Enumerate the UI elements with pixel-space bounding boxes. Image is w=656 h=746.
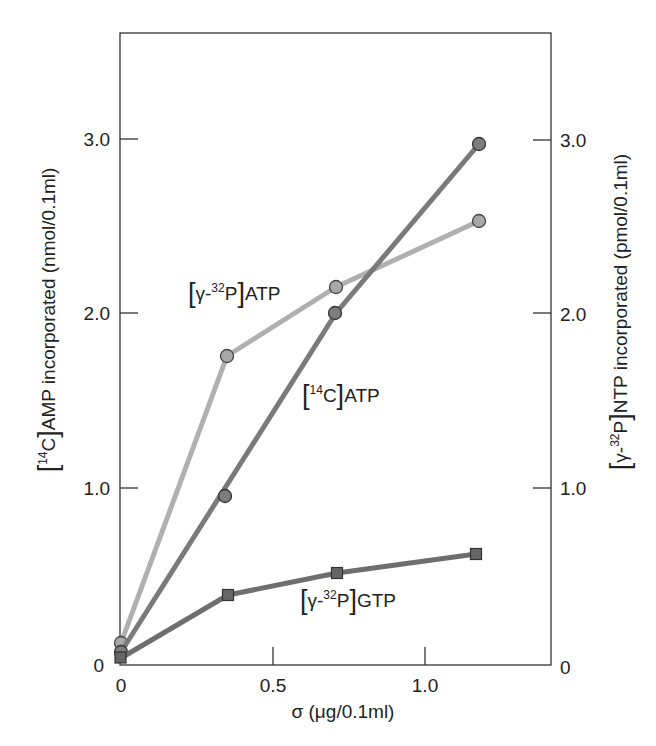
left-axis-title: [14C]AMP incorporated (nmol/0.1ml): [33, 168, 63, 473]
x-tick-0: 0: [116, 675, 127, 696]
left-tick-3: 3.0: [84, 129, 110, 150]
chart: 0 1.0 2.0 3.0 0 1.0 2.0 3.0 0 0.5 1.0 σ …: [0, 0, 656, 746]
left-tick-1: 1.0: [84, 478, 110, 499]
x-axis-title: σ (μg/0.1ml): [292, 701, 395, 722]
svg-text:[14C]AMP incorporated (nmol/0.: [14C]AMP incorporated (nmol/0.1ml): [33, 168, 63, 473]
label-gamma-gtp: [γ-32P]GTP: [300, 585, 396, 615]
data-point: [473, 215, 486, 228]
right-y-ticks: [533, 140, 551, 488]
data-point: [330, 281, 343, 294]
data-point: [223, 590, 234, 601]
left-tick-0: 0: [93, 655, 104, 676]
right-tick-1: 1.0: [560, 478, 586, 499]
series-gamma-gtp: [115, 549, 482, 664]
left-y-ticks: [120, 139, 138, 488]
data-point: [332, 568, 343, 579]
right-tick-2: 2.0: [560, 304, 586, 325]
label-14c-atp: [14C]ATP: [302, 380, 380, 410]
right-tick-0: 0: [560, 657, 571, 678]
data-point: [219, 490, 232, 503]
right-axis-title: [γ-32P]NTP incorporated (pmol/0.1ml): [605, 154, 635, 470]
right-tick-3: 3.0: [560, 130, 586, 151]
x-tick-05: 0.5: [260, 675, 286, 696]
x-ticks: [273, 647, 425, 665]
svg-text:[γ-32P]NTP incorporated (pmol/: [γ-32P]NTP incorporated (pmol/0.1ml): [605, 154, 635, 470]
left-tick-2: 2.0: [84, 303, 110, 324]
x-tick-10: 1.0: [412, 675, 438, 696]
data-point: [221, 350, 234, 363]
data-point: [115, 652, 126, 663]
data-point: [329, 307, 342, 320]
label-gamma-atp: [γ-32P]ATP: [188, 278, 280, 308]
data-point: [473, 138, 486, 151]
data-point: [471, 549, 482, 560]
